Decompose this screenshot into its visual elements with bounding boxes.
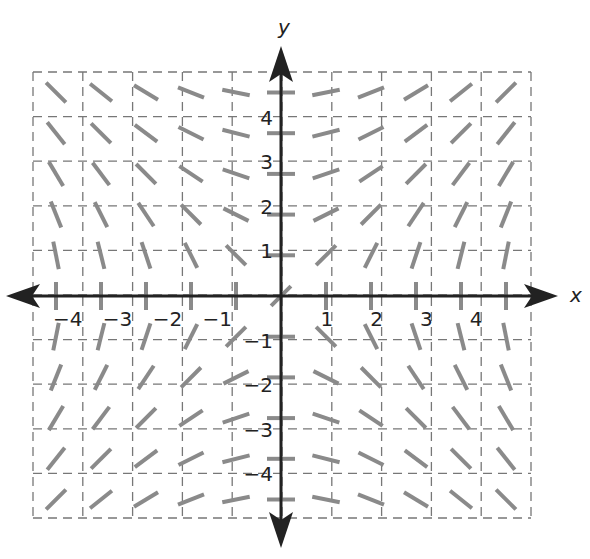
slope-segment: [93, 163, 110, 185]
y-tick-label: 4: [260, 106, 273, 130]
slope-segment: [453, 163, 470, 185]
slope-segment: [503, 323, 508, 350]
slope-segment: [499, 162, 513, 186]
slope-segment: [90, 491, 112, 508]
x-tick-label: −3: [103, 307, 132, 331]
slope-segment: [312, 90, 339, 95]
y-tick-label: 3: [260, 150, 273, 174]
slope-segment: [93, 407, 110, 429]
slope-segment: [313, 169, 340, 178]
slope-segment: [405, 450, 427, 467]
slope-segment: [49, 406, 63, 430]
slope-segment: [450, 491, 472, 508]
slope-segment: [359, 410, 382, 426]
slope-segment: [134, 492, 158, 506]
slope-segment: [496, 83, 516, 103]
slope-segment: [365, 243, 378, 268]
slope-segment: [226, 245, 246, 265]
y-tick-label: −3: [244, 418, 273, 442]
slope-segment: [312, 130, 339, 137]
slope-segment: [496, 490, 516, 510]
slope-segment: [136, 408, 156, 428]
slope-segment: [181, 205, 201, 225]
slope-segment: [222, 497, 249, 502]
slope-segment: [358, 87, 384, 97]
slope-segment: [316, 245, 336, 265]
slope-segment: [451, 123, 471, 143]
slope-segment: [451, 449, 471, 469]
slope-segment: [499, 406, 513, 430]
slope-segment: [312, 497, 339, 502]
slope-segment: [222, 90, 249, 95]
slope-segment: [142, 323, 151, 350]
slope-segment: [222, 130, 249, 137]
slope-segment: [134, 85, 158, 99]
x-axis-label: x: [569, 283, 582, 307]
slope-segment: [359, 166, 382, 182]
x-tick-label: −1: [202, 307, 231, 331]
slope-segment: [312, 455, 339, 462]
slope-segment: [135, 125, 157, 142]
slope-segment: [404, 85, 428, 99]
slope-segment: [313, 414, 340, 423]
slope-segment: [450, 84, 472, 101]
x-tick-label: 2: [370, 307, 383, 331]
slope-segment: [497, 122, 514, 144]
slope-segment: [458, 323, 465, 350]
slope-segment: [47, 448, 64, 470]
slope-segment: [455, 365, 468, 390]
slope-segment: [223, 169, 250, 178]
slope-segment: [361, 205, 381, 225]
slope-segment: [53, 242, 58, 269]
slope-segment: [222, 455, 249, 462]
slope-segment: [138, 366, 154, 389]
y-tick-label: −4: [244, 462, 273, 486]
slope-segment: [313, 371, 338, 384]
x-tick-label: 3: [420, 307, 433, 331]
y-tick-label: −2: [244, 373, 273, 397]
slope-segment: [313, 208, 338, 221]
y-axis-label: y: [277, 15, 291, 39]
slope-segment: [91, 123, 111, 143]
x-tick-label: 1: [320, 307, 333, 331]
slope-segment: [136, 164, 156, 184]
slope-segment: [49, 162, 63, 186]
slope-segment: [358, 127, 383, 140]
slope-segment: [185, 243, 198, 268]
slope-segment: [453, 407, 470, 429]
slope-segment: [98, 242, 105, 269]
slope-segment: [223, 208, 248, 221]
slope-segment: [501, 364, 511, 390]
x-tick-label: 4: [470, 307, 483, 331]
x-tick-label: −2: [153, 307, 182, 331]
x-tick-label: −4: [53, 307, 82, 331]
slope-segment: [95, 365, 108, 390]
slope-segment: [406, 164, 426, 184]
slope-segment: [406, 408, 426, 428]
slope-segment: [46, 490, 66, 510]
y-tick-label: −1: [244, 329, 273, 353]
slope-field-chart: −4−3−2−112344321−1−2−3−4 x y: [0, 0, 590, 559]
slope-segment: [358, 494, 384, 504]
slope-segment: [458, 242, 465, 269]
y-tick-label: 2: [260, 195, 273, 219]
slope-segment: [90, 84, 112, 101]
slope-segment: [142, 242, 151, 269]
slope-segment: [91, 449, 111, 469]
slope-segment: [46, 83, 66, 103]
slope-segment: [135, 450, 157, 467]
slope-segment: [47, 122, 64, 144]
axes: [6, 46, 558, 548]
slope-segment: [497, 448, 514, 470]
slope-segment: [405, 125, 427, 142]
slope-segment: [358, 453, 383, 466]
y-tick-label: 1: [260, 239, 273, 263]
slope-segment: [51, 364, 61, 390]
slope-segment: [412, 242, 421, 269]
slope-segment: [503, 242, 508, 269]
slope-segment: [185, 324, 198, 349]
slope-segment: [404, 492, 428, 506]
slope-segment: [408, 366, 424, 389]
